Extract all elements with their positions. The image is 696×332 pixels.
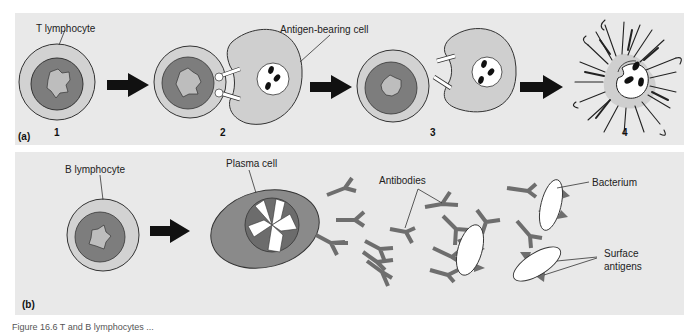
t-lymphocyte-cell-3 (357, 50, 429, 122)
surface-antigens-label-line-2: antigens (604, 261, 642, 272)
surface-antigens-label-line-1: Surface (604, 248, 639, 259)
lymphocyte-diagram: T lymphocyte 1 (a) Antigen-bearing cell … (0, 0, 696, 332)
panel-a-label: (a) (18, 131, 30, 142)
antigen-bearing-cell-label: Antigen-bearing cell (280, 24, 368, 35)
step-2-number: 2 (220, 127, 226, 138)
step-3-number: 3 (430, 127, 436, 138)
antibodies-label: Antibodies (379, 175, 426, 186)
b-lymphocyte-cell (67, 199, 139, 271)
bacterium-label: Bacterium (592, 177, 637, 188)
step-4-number: 4 (622, 127, 628, 138)
step-1-number: 1 (54, 127, 60, 138)
t-lymphocyte-label: T lymphocyte (36, 23, 96, 34)
t-lymphocyte-cell-1 (19, 44, 95, 120)
panel-b-label: (b) (22, 299, 35, 310)
b-lymphocyte-label: B lymphocyte (65, 164, 125, 175)
figure-caption: Figure 16.6 T and B lymphocytes ... (12, 322, 154, 332)
plasma-cell-label: Plasma cell (226, 158, 277, 169)
